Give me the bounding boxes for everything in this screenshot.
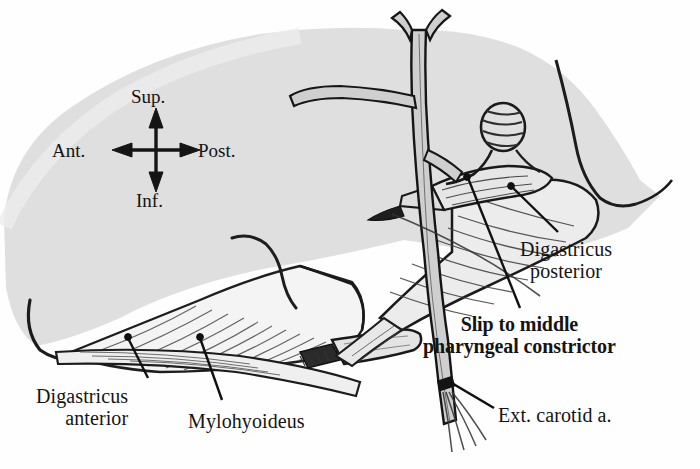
label-slip-to-middle-pharyngeal-constrictor: Slip to middle pharyngeal constrictor (423, 313, 616, 358)
label-mylohyoideus: Mylohyoideus (188, 410, 305, 432)
compass-label-inferior: Inf. (136, 190, 163, 212)
compass-label-superior: Sup. (131, 86, 165, 108)
compass-label-posterior: Post. (198, 140, 236, 162)
label-digastricus-anterior: Digastricus anterior (36, 385, 128, 430)
label-digastricus-posterior: Digastricus posterior (520, 238, 612, 283)
compass-label-anterior: Ant. (52, 140, 85, 162)
anatomical-figure: Sup. Inf. Ant. Post. Digastricus anterio… (0, 0, 700, 469)
label-ext-carotid-artery: Ext. carotid a. (498, 404, 612, 426)
